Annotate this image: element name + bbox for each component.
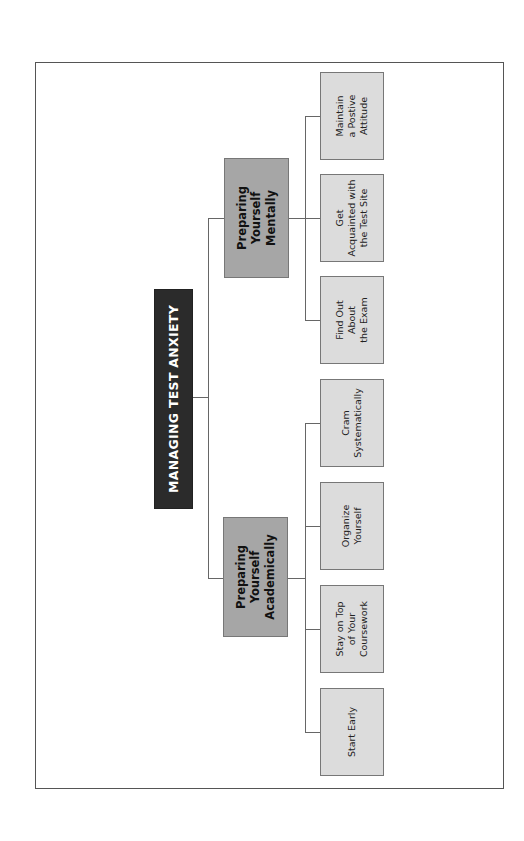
branch-node-academically: Preparing Yourself Academically [223, 517, 288, 637]
leaf-node-maintain-attitude: Maintain a Postive Attitude [320, 72, 384, 160]
connector-leaf [305, 732, 320, 733]
leaf-node-coursework: Stay on Top of Your Coursework [320, 585, 384, 673]
connector-root [193, 397, 208, 398]
connector-academically-trunk [305, 423, 306, 732]
branch-node-mentally: Preparing Yourself Mentally [224, 158, 289, 278]
leaf-node-find-out-exam: Find Out About the Exam [320, 276, 384, 364]
leaf-node-start-early: Start Early [320, 688, 384, 776]
leaf-label: Organize Yourself [340, 505, 364, 548]
leaf-label: Maintain a Postive Attitude [334, 95, 370, 138]
connector-leaf [305, 218, 320, 219]
connector-leaf [305, 320, 320, 321]
connector-leaf [305, 526, 320, 527]
connector-mentally-out [289, 218, 305, 219]
leaf-node-test-site: Get Acquainted with the Test Site [320, 174, 384, 262]
connector-to-academically [208, 578, 223, 579]
root-title: MANAGING TEST ANXIETY [166, 305, 182, 493]
branch-label: Preparing Yourself Mentally [235, 186, 278, 250]
leaf-node-organize: Organize Yourself [320, 482, 384, 570]
leaf-label: Get Acquainted with the Test Site [334, 180, 370, 257]
connector-leaf [305, 629, 320, 630]
leaf-label: Cram Systematically [340, 388, 364, 458]
leaf-label: Start Early [346, 707, 358, 757]
connector-leaf [305, 423, 320, 424]
connector-trunk [208, 218, 209, 579]
connector-leaf [305, 116, 320, 117]
connector-to-mentally [208, 218, 224, 219]
connector-academically-out [288, 578, 305, 579]
root-node: MANAGING TEST ANXIETY [154, 289, 193, 509]
leaf-label: Stay on Top of Your Coursework [334, 601, 370, 657]
leaf-node-cram: Cram Systematically [320, 379, 384, 467]
branch-label: Preparing Yourself Academically [234, 534, 277, 619]
leaf-label: Find Out About the Exam [334, 297, 370, 342]
